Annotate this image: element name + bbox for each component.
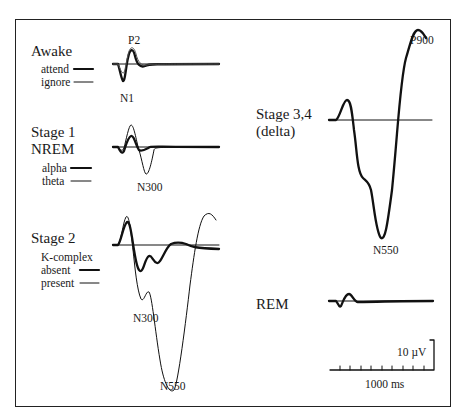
waveforms	[0, 0, 464, 420]
